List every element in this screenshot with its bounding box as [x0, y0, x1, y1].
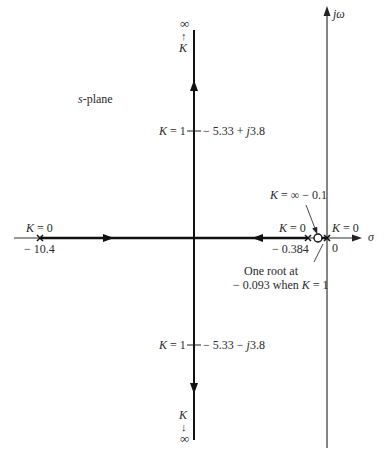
origin-label: 0 [332, 242, 338, 255]
pole-3-k-label: K = 0 [332, 222, 359, 235]
locus-arrow-up-icon [190, 80, 198, 91]
locus-arrow-right-icon [103, 234, 114, 242]
k1-lower-value: − 5.33 − j3.8 [203, 339, 265, 352]
imag-axis-label: jω [333, 8, 345, 21]
zero-leader-line [306, 205, 316, 231]
root-locus-diagram [0, 0, 389, 456]
root-leader-line [314, 244, 323, 262]
zero-k-label: K = ∞ − 0.1 [270, 189, 327, 202]
annotation-line-2: − 0.093 when K = 1 [233, 279, 329, 292]
locus-arrow-left-icon [252, 234, 263, 242]
top-k-label: K [179, 42, 187, 55]
real-axis-arrow-icon [352, 235, 362, 242]
s-plane-suffix: -plane [83, 92, 113, 106]
pole-1-value: − 10.4 [24, 243, 55, 256]
locus-arrow-down-icon [190, 383, 198, 394]
imaginary-axis-arrow-icon [324, 6, 331, 16]
s-plane-label: s-plane [78, 93, 113, 106]
zero-marker-icon [314, 234, 322, 242]
top-infinity-label: ∞ [180, 17, 189, 30]
bottom-infinity-label: ∞ [180, 432, 189, 445]
pole-2-value: − 0.384 [272, 243, 309, 256]
pole-2-k-label: K = 0 [279, 222, 306, 235]
pole-1-k-label: K = 0 [26, 222, 53, 235]
k1-upper-k-label: K = 1 [159, 125, 186, 138]
k1-upper-value: − 5.33 + j3.8 [203, 125, 265, 138]
real-axis-label: σ [368, 231, 374, 244]
k1-lower-k-label: K = 1 [159, 339, 186, 352]
zero-value: − 0.1 [302, 188, 327, 202]
annotation-line-1: One root at [244, 265, 298, 278]
